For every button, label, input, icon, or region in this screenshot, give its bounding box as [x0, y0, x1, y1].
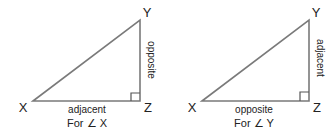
- diagram-canvas: X Y Z adjacent opposite For ∠ X X Y Z op…: [0, 0, 336, 133]
- angle-caption: For ∠ X: [67, 117, 108, 129]
- triangle-angle-y: X Y Z opposite adjacent For ∠ Y: [188, 5, 326, 129]
- vertex-z-label: Z: [313, 100, 321, 115]
- vertical-side-label: adjacent: [315, 39, 326, 77]
- right-angle-marker: [131, 93, 140, 101]
- vertex-x-label: X: [19, 100, 28, 115]
- triangle-shape: [202, 20, 309, 101]
- triangle-shape: [33, 20, 140, 101]
- bottom-side-label: opposite: [235, 104, 273, 115]
- triangle-angle-x: X Y Z adjacent opposite For ∠ X: [19, 5, 157, 129]
- angle-caption: For ∠ Y: [234, 117, 274, 129]
- vertex-y-label: Y: [143, 5, 152, 20]
- vertex-x-label: X: [188, 100, 197, 115]
- vertical-side-label: opposite: [146, 41, 157, 79]
- right-angle-marker: [300, 92, 309, 101]
- vertex-z-label: Z: [144, 100, 152, 115]
- vertex-y-label: Y: [312, 5, 321, 20]
- bottom-side-label: adjacent: [68, 104, 106, 115]
